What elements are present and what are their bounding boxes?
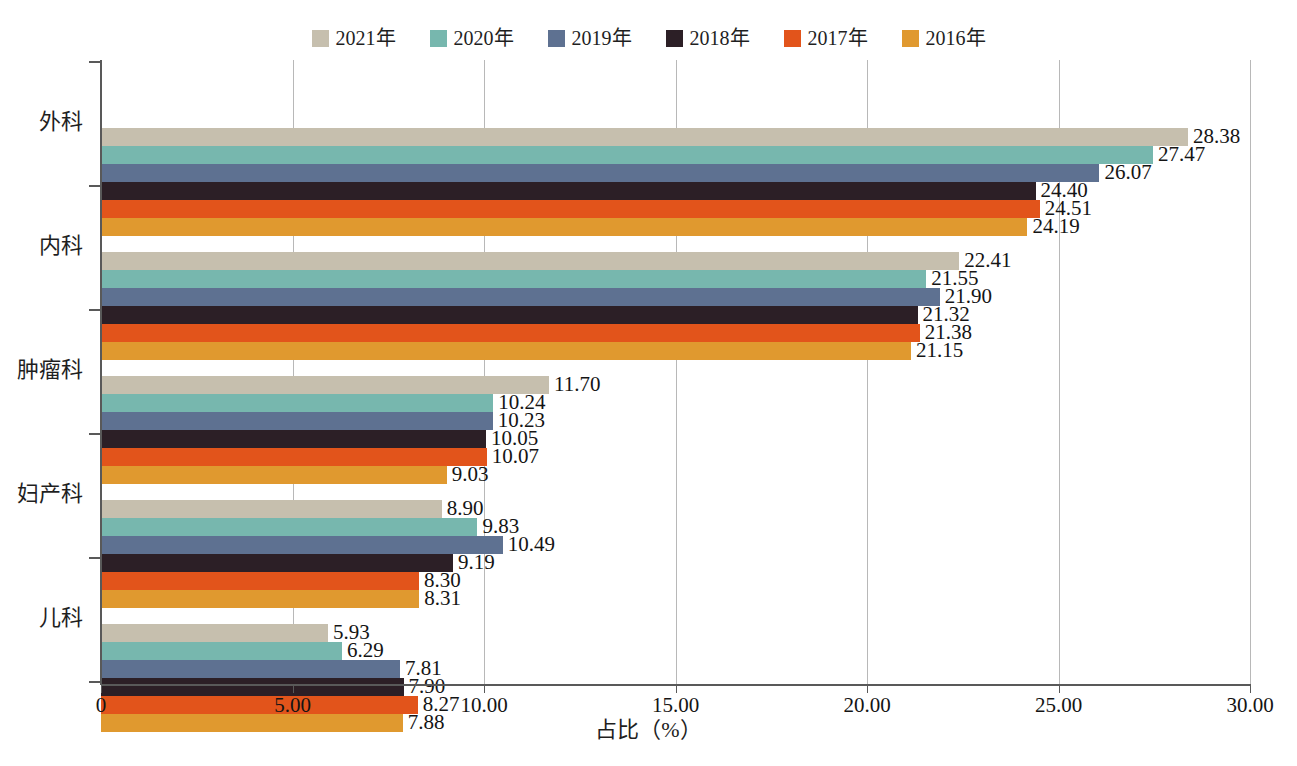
bar-chart: 2021年2020年2019年2018年2017年2016年 28.3827.4…	[0, 0, 1297, 766]
x-axis-tick	[293, 684, 294, 693]
bar-2019年-外科[interactable]	[101, 164, 1099, 182]
bar-row: 10.24	[101, 394, 1250, 412]
bar-row: 10.49	[101, 536, 1250, 554]
x-axis-tick-label: 0	[96, 695, 107, 716]
bar-2017年-肿瘤科[interactable]	[101, 448, 487, 466]
legend-item-2021年[interactable]: 2021年	[312, 28, 396, 48]
x-axis-tick-label: 30.00	[1226, 695, 1273, 716]
bar-row: 5.93	[101, 624, 1250, 642]
bar-value-label: 6.29	[342, 640, 384, 661]
legend-item-2016年[interactable]: 2016年	[902, 28, 986, 48]
gridline	[1250, 60, 1251, 684]
bar-2019年-肿瘤科[interactable]	[101, 412, 493, 430]
y-axis-tick	[89, 61, 101, 63]
bar-2021年-儿科[interactable]	[101, 624, 328, 642]
y-axis-category-label: 内科	[39, 235, 83, 257]
bar-2019年-内科[interactable]	[101, 288, 940, 306]
legend-label: 2018年	[690, 28, 750, 48]
bar-2021年-内科[interactable]	[101, 252, 959, 270]
legend-label: 2017年	[808, 28, 868, 48]
bar-2018年-外科[interactable]	[101, 182, 1036, 200]
bar-row: 9.83	[101, 518, 1250, 536]
bar-row: 27.47	[101, 146, 1250, 164]
y-axis-tick	[89, 433, 101, 435]
bar-2017年-妇产科[interactable]	[101, 572, 419, 590]
bar-2020年-妇产科[interactable]	[101, 518, 477, 536]
bar-2021年-外科[interactable]	[101, 128, 1188, 146]
bar-2019年-儿科[interactable]	[101, 660, 400, 678]
legend-item-2018年[interactable]: 2018年	[666, 28, 750, 48]
bar-row: 21.15	[101, 342, 1250, 360]
bar-value-label: 26.07	[1099, 162, 1151, 183]
legend-swatch-icon	[548, 30, 565, 47]
legend-swatch-icon	[312, 30, 329, 47]
bar-row: 21.32	[101, 306, 1250, 324]
bar-row: 9.19	[101, 554, 1250, 572]
bar-group: 28.3827.4726.0724.4024.5124.19	[101, 128, 1250, 236]
legend-swatch-icon	[666, 30, 683, 47]
x-axis-tick	[484, 684, 485, 693]
bar-2020年-内科[interactable]	[101, 270, 926, 288]
legend-item-2020年[interactable]: 2020年	[430, 28, 514, 48]
bar-row: 8.31	[101, 590, 1250, 608]
y-axis-tick	[89, 309, 101, 311]
x-axis-tick-label: 20.00	[843, 695, 890, 716]
bar-value-label: 21.15	[911, 340, 963, 361]
y-axis-tick	[89, 185, 101, 187]
legend-label: 2021年	[336, 28, 396, 48]
bar-2020年-外科[interactable]	[101, 146, 1153, 164]
bar-row: 8.90	[101, 500, 1250, 518]
bar-2020年-儿科[interactable]	[101, 642, 342, 660]
legend-swatch-icon	[902, 30, 919, 47]
x-axis-tick-label: 15.00	[652, 695, 699, 716]
bar-2018年-肿瘤科[interactable]	[101, 430, 486, 448]
bar-2018年-妇产科[interactable]	[101, 554, 453, 572]
bar-2016年-内科[interactable]	[101, 342, 911, 360]
x-axis-tick-label: 25.00	[1035, 695, 1082, 716]
bar-2017年-内科[interactable]	[101, 324, 920, 342]
legend-swatch-icon	[784, 30, 801, 47]
y-axis-tick	[89, 557, 101, 559]
bar-2019年-妇产科[interactable]	[101, 536, 503, 554]
legend-label: 2019年	[572, 28, 632, 48]
legend-item-2017年[interactable]: 2017年	[784, 28, 868, 48]
bar-row: 10.23	[101, 412, 1250, 430]
bar-group: 8.909.8310.499.198.308.31	[101, 500, 1250, 608]
bar-2016年-外科[interactable]	[101, 218, 1027, 236]
bar-2020年-肿瘤科[interactable]	[101, 394, 493, 412]
bar-value-label: 10.07	[487, 446, 539, 467]
plot-area: 28.3827.4726.0724.4024.5124.1922.4121.55…	[101, 60, 1250, 684]
x-axis-tick	[676, 684, 677, 693]
legend-label: 2020年	[454, 28, 514, 48]
x-axis-tick	[101, 684, 102, 693]
bar-2016年-肿瘤科[interactable]	[101, 466, 447, 484]
bar-row: 10.07	[101, 448, 1250, 466]
legend-label: 2016年	[926, 28, 986, 48]
bar-value-label: 11.70	[549, 374, 600, 395]
y-axis-category-label: 儿科	[39, 607, 83, 629]
x-axis-tick-label: 10.00	[460, 695, 507, 716]
bar-value-label: 8.31	[419, 588, 461, 609]
bar-row: 21.38	[101, 324, 1250, 342]
bar-2021年-肿瘤科[interactable]	[101, 376, 549, 394]
bar-2021年-妇产科[interactable]	[101, 500, 442, 518]
bar-row: 22.41	[101, 252, 1250, 270]
bar-2017年-儿科[interactable]	[101, 696, 418, 714]
y-axis-category-label: 肿瘤科	[17, 359, 83, 381]
bar-2018年-内科[interactable]	[101, 306, 918, 324]
bar-row: 21.90	[101, 288, 1250, 306]
bar-row: 11.70	[101, 376, 1250, 394]
bar-row: 7.81	[101, 660, 1250, 678]
x-axis-tick-label: 5.00	[274, 695, 311, 716]
bar-value-label: 27.47	[1153, 144, 1205, 165]
bar-2018年-儿科[interactable]	[101, 678, 404, 696]
bar-2016年-妇产科[interactable]	[101, 590, 419, 608]
legend-swatch-icon	[430, 30, 447, 47]
legend-item-2019年[interactable]: 2019年	[548, 28, 632, 48]
bar-2017年-外科[interactable]	[101, 200, 1040, 218]
bar-row: 9.03	[101, 466, 1250, 484]
bar-row: 6.29	[101, 642, 1250, 660]
x-axis-tick	[867, 684, 868, 693]
bar-row: 28.38	[101, 128, 1250, 146]
bar-value-label: 24.19	[1027, 216, 1079, 237]
